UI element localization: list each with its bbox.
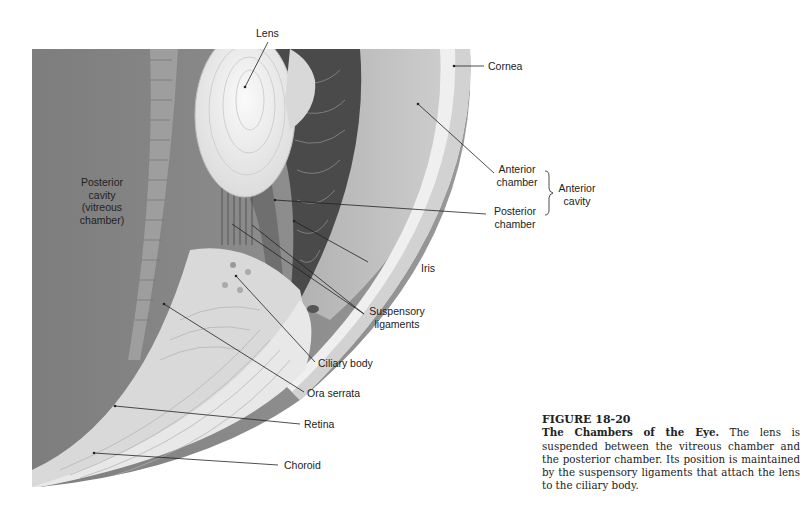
figure-title: The Chambers of the Eye. (542, 426, 719, 438)
label-retina: Retina (304, 418, 334, 431)
eye-chambers-figure: Lens Cornea Posterior cavity (vitreous c… (0, 0, 804, 505)
label-ora-serrata: Ora serrata (307, 387, 360, 400)
canal-of-schlemm (307, 305, 319, 313)
label-cornea: Cornea (488, 60, 522, 73)
label-iris: Iris (421, 262, 435, 275)
label-lens: Lens (256, 27, 279, 40)
figure-caption: FIGURE 18-20 The Chambers of the Eye. Th… (542, 413, 800, 493)
label-posterior-cavity: Posterior cavity (vitreous chamber) (72, 176, 132, 226)
label-posterior-chamber: Posterior chamber (485, 205, 545, 230)
label-ciliary-body: Ciliary body (318, 357, 373, 370)
label-choroid: Choroid (284, 459, 321, 472)
label-anterior-cavity: Anterior cavity (552, 182, 602, 207)
figure-number: FIGURE 18-20 (542, 413, 800, 426)
label-anterior-chamber: Anterior chamber (487, 163, 547, 188)
label-suspensory-ligaments: Suspensory ligaments (362, 305, 432, 330)
